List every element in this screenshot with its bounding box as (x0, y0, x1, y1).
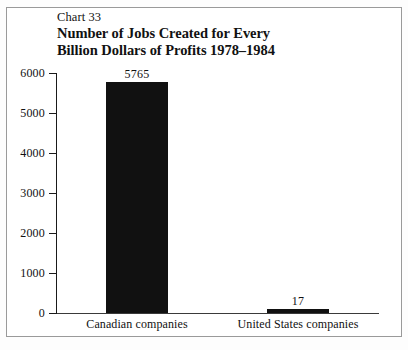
y-axis-tick (49, 153, 57, 154)
y-axis-tick (49, 113, 57, 114)
category-label: United States companies (218, 317, 378, 331)
y-axis-tick-label: 3000 (20, 187, 45, 199)
y-axis-tick-label: 1000 (20, 267, 45, 279)
y-axis-tick-label: 6000 (20, 67, 45, 79)
y-axis-tick (49, 273, 57, 274)
bar-value-label: 17 (258, 295, 338, 307)
y-axis-tick-label: 0 (39, 307, 45, 319)
category-label: Canadian companies (57, 317, 217, 331)
y-axis-tick-label: 5000 (20, 107, 45, 119)
y-axis-tick-label: 4000 (20, 147, 45, 159)
bar (267, 309, 329, 313)
y-axis-tick (49, 313, 57, 314)
y-axis-tick (49, 193, 57, 194)
x-axis-line (56, 313, 379, 314)
bar (106, 82, 168, 313)
y-axis-tick-label: 2000 (20, 227, 45, 239)
chart-figure: Chart 33 Number of Jobs Created for Ever… (0, 0, 408, 350)
plot-area: 0100020003000400050006000 5765Canadian c… (0, 0, 408, 350)
y-axis-tick (49, 233, 57, 234)
bar-value-label: 5765 (97, 68, 177, 80)
y-axis-tick (49, 73, 57, 74)
